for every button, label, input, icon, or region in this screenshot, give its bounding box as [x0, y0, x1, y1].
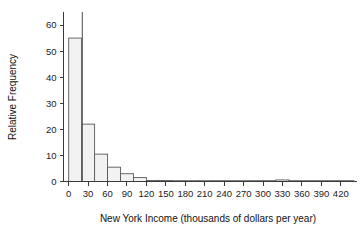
- histogram-chart: 0102030405060 03060901201501802102402703…: [0, 0, 364, 241]
- y-axis-tick-label: 60: [46, 19, 57, 30]
- x-axis-tick-label: 330: [275, 188, 291, 199]
- y-axis-tick-label: 10: [46, 150, 57, 161]
- x-axis-tick-label: 120: [139, 188, 155, 199]
- x-axis-tick-label: 300: [255, 188, 271, 199]
- histogram-bar: [121, 174, 134, 182]
- x-axis-tick-label: 180: [177, 188, 193, 199]
- x-axis-tick-label: 60: [102, 188, 113, 199]
- y-axis-tick-label: 50: [46, 46, 57, 57]
- histogram-bar: [108, 167, 121, 181]
- x-axis-tick-label: 210: [197, 188, 213, 199]
- y-axis-tick-label: 30: [46, 98, 57, 109]
- x-axis-tick-label: 30: [83, 188, 94, 199]
- histogram-bar: [133, 178, 146, 182]
- x-axis-tick-label: 240: [216, 188, 232, 199]
- x-axis-tick-label: 420: [333, 188, 349, 199]
- x-axis-tick-label: 150: [158, 188, 174, 199]
- x-axis-tick-label: 270: [236, 188, 252, 199]
- y-axis-title: Relative Frequency: [7, 54, 18, 140]
- chart-background: [0, 0, 364, 241]
- y-axis-tick-label: 20: [46, 124, 57, 135]
- x-axis-tick-label: 360: [294, 188, 310, 199]
- x-axis-tick-label: 390: [313, 188, 329, 199]
- x-axis-tick-label: 90: [122, 188, 133, 199]
- x-axis-title: New York Income (thousands of dollars pe…: [100, 213, 316, 224]
- histogram-bar: [95, 154, 108, 181]
- y-axis-tick-label: 40: [46, 72, 57, 83]
- histogram-bar: [69, 38, 82, 181]
- y-axis-tick-label: 0: [51, 176, 56, 187]
- chart-canvas: 0102030405060 03060901201501802102402703…: [0, 0, 364, 241]
- x-axis-tick-label: 0: [66, 188, 71, 199]
- histogram-bar: [82, 124, 95, 181]
